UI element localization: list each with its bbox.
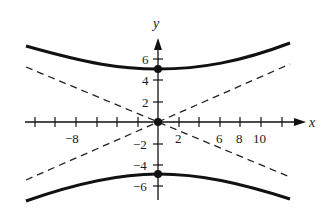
vertex-point-upper	[154, 65, 162, 73]
x-tick-label: 8	[236, 131, 243, 146]
y-tick-label: −4	[133, 158, 147, 173]
x-tick-label: 6	[216, 131, 223, 146]
x-axis-label: x	[308, 115, 316, 130]
center-point	[154, 118, 162, 126]
y-tick-label: 4	[142, 73, 149, 88]
vertex-point-lower	[154, 170, 162, 178]
y-axis-arrow-icon	[154, 38, 162, 50]
x-tick-label: −8	[65, 131, 79, 146]
x-tick-label: 2	[175, 131, 182, 146]
y-tick-label: 6	[142, 52, 149, 67]
y-tick-label: −2	[133, 137, 147, 152]
hyperbola-chart: x y −8 2 6 8 10 6 4 2 −2 −4 −6	[0, 0, 326, 212]
x-axis-arrow-icon	[294, 118, 306, 126]
y-axis-label: y	[151, 16, 160, 31]
y-tick-label: 2	[142, 95, 149, 110]
y-tick-label: −6	[133, 179, 147, 194]
x-tick-label: 10	[253, 131, 266, 146]
